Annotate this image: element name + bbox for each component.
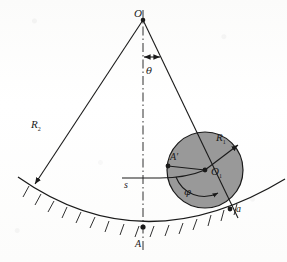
track-arc: [18, 177, 285, 222]
label-radius-r1-subscript: 1: [223, 139, 226, 145]
label-disk-center-letter: O: [211, 165, 219, 177]
label-angle-theta: θ: [146, 65, 152, 76]
geometry-diagram: O θ R2 R1 O1 A′ s φ a A: [0, 0, 287, 262]
label-point-A: A: [134, 238, 142, 249]
label-point-A-prime: A′: [169, 151, 179, 162]
point-marker-O1: [203, 168, 208, 173]
label-angle-phi: φ: [184, 186, 191, 197]
label-arc-length-s: s: [124, 179, 128, 190]
label-radius-r2: R2: [30, 118, 41, 132]
point-marker-a: [228, 207, 233, 212]
radius-r2-line: [35, 20, 143, 184]
figure-canvas: O θ R2 R1 O1 A′ s φ a A: [0, 0, 287, 262]
label-contact-point-a: a: [236, 203, 241, 214]
label-radius-r2-subscript: 2: [38, 126, 41, 132]
label-radius-r1: R1: [215, 131, 226, 145]
point-marker-A-prime: [166, 164, 171, 169]
label-disk-center-subscript: 1: [219, 173, 222, 179]
point-marker-A: [140, 224, 145, 229]
label-apex-O: O: [134, 7, 142, 19]
